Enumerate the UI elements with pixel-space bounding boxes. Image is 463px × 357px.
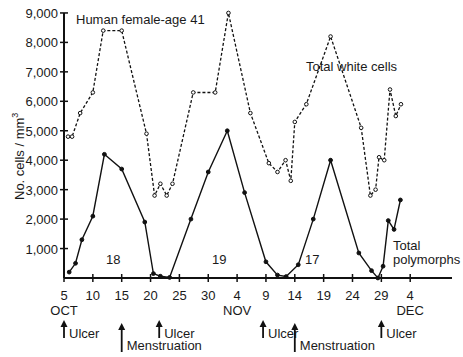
data-point: [189, 217, 193, 221]
data-point: [388, 88, 392, 92]
data-point: [305, 102, 309, 106]
data-point: [284, 158, 288, 162]
data-point: [376, 276, 380, 280]
x-tick-label: 29: [374, 288, 388, 303]
x-tick-label: 15: [114, 288, 128, 303]
data-point: [206, 170, 210, 174]
data-point: [374, 188, 378, 192]
x-tick-label: 20: [143, 288, 157, 303]
data-point: [67, 270, 71, 274]
data-point: [329, 35, 333, 39]
events-layer: UlcerMenstruationUlcerUlcerMenstruationU…: [61, 320, 418, 353]
data-point: [143, 220, 147, 224]
y-tick-label: 2,000: [25, 212, 58, 227]
event-label: Ulcer: [386, 326, 417, 341]
data-point: [153, 194, 157, 198]
data-point: [369, 194, 373, 198]
data-point: [227, 11, 231, 15]
data-point: [80, 238, 84, 242]
event-label: Ulcer: [69, 326, 100, 341]
data-point: [159, 182, 163, 186]
x-axis: 5OCT10152025304NOV9141924294DEC: [50, 274, 452, 318]
data-point: [171, 182, 175, 186]
data-point: [243, 191, 247, 195]
svg-text:No. cells / mm3: No. cells / mm3: [10, 113, 27, 200]
data-point: [158, 274, 162, 278]
data-point: [370, 269, 374, 273]
data-point: [145, 132, 149, 136]
y-tick-label: 5,000: [25, 124, 58, 139]
data-point: [289, 179, 293, 183]
data-point: [293, 120, 297, 124]
x-tick-label: 30: [201, 288, 215, 303]
data-point: [399, 102, 403, 106]
y-tick-label: 9,000: [25, 6, 58, 21]
data-point: [74, 261, 78, 265]
data-point: [213, 91, 217, 95]
y-tick-label: 7,000: [25, 65, 58, 80]
x-month-label: NOV: [223, 303, 252, 318]
data-point: [225, 129, 229, 133]
x-tick-label: 9: [262, 288, 269, 303]
data-point: [398, 198, 402, 202]
y-axis: 1,0002,0003,0004,0005,0006,0007,0008,000…: [25, 6, 68, 278]
cycle-label-19: 19: [212, 252, 226, 267]
x-tick-label: 4: [407, 288, 414, 303]
data-point: [101, 29, 105, 33]
x-tick-label: 24: [345, 288, 359, 303]
legend-polymorphs-line2: polymorphs: [393, 252, 461, 267]
y-tick-label: 6,000: [25, 94, 58, 109]
x-tick-label: 25: [172, 288, 186, 303]
event-label: Ulcer: [164, 326, 195, 341]
x-tick-label: 10: [86, 288, 100, 303]
data-point: [357, 251, 361, 255]
data-point: [267, 161, 271, 165]
data-point: [91, 214, 95, 218]
event-label: Menstruation: [300, 338, 375, 353]
y-tick-label: 1,000: [25, 242, 58, 257]
y-tick-label: 3,000: [25, 183, 58, 198]
data-point: [165, 194, 169, 198]
data-point: [276, 170, 280, 174]
data-point: [381, 264, 385, 268]
data-point: [359, 126, 363, 130]
cycle-label-17: 17: [305, 252, 319, 267]
x-tick-label: 19: [316, 288, 330, 303]
x-tick-label: 5: [60, 288, 67, 303]
data-point: [91, 91, 95, 95]
data-point: [152, 272, 156, 276]
data-point: [329, 158, 333, 162]
data-point: [382, 158, 386, 162]
x-tick-label: 14: [288, 288, 302, 303]
x-month-label: DEC: [396, 303, 423, 318]
data-point: [78, 111, 82, 115]
data-point: [296, 263, 300, 267]
data-point: [120, 29, 124, 33]
data-point: [276, 273, 280, 277]
y-tick-label: 8,000: [25, 35, 58, 50]
x-month-label: OCT: [50, 303, 78, 318]
data-point: [120, 167, 124, 171]
chart-title: Human female-age 41: [76, 12, 205, 27]
data-point: [394, 114, 398, 118]
data-point: [264, 260, 268, 264]
data-point: [168, 276, 172, 280]
x-tick-label: 4: [233, 288, 240, 303]
data-point: [377, 155, 381, 159]
data-point: [386, 219, 390, 223]
data-point: [102, 152, 106, 156]
data-point: [284, 275, 288, 279]
data-point: [70, 135, 74, 139]
data-point: [66, 135, 70, 139]
legend-polymorphs-line1: Total: [393, 238, 421, 253]
data-point: [311, 217, 315, 221]
data-point: [191, 91, 195, 95]
data-point: [392, 228, 396, 232]
cycle-label-18: 18: [106, 252, 120, 267]
line-chart: 1,0002,0003,0004,0005,0006,0007,0008,000…: [0, 0, 463, 357]
white-cells-line: [68, 13, 401, 196]
y-axis-label: No. cells / mm3: [10, 113, 27, 200]
legend-white-cells: Total white cells: [306, 59, 398, 74]
y-tick-label: 4,000: [25, 153, 58, 168]
series-layer: [66, 11, 403, 280]
